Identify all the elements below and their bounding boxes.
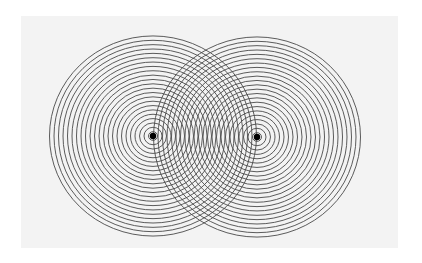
diagram-canvas	[0, 0, 422, 263]
right-source-dot	[254, 134, 260, 140]
interference-diagram	[0, 0, 422, 263]
left-source-dot	[150, 133, 156, 139]
